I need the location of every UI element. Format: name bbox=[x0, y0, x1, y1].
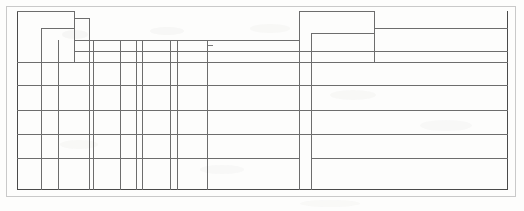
row-divider-header-bottom bbox=[74, 51, 508, 52]
header-block-b-top bbox=[41, 28, 75, 29]
paper-speck bbox=[300, 200, 360, 207]
row-divider-3 bbox=[17, 110, 508, 111]
row-divider-2 bbox=[17, 85, 508, 86]
row-divider-5 bbox=[17, 158, 299, 159]
header-block-c-top bbox=[74, 18, 90, 19]
row-divider-1 bbox=[17, 62, 508, 63]
row-divider-4 bbox=[17, 134, 508, 135]
header-block-f-top bbox=[311, 33, 375, 34]
header-block-e-left bbox=[299, 11, 300, 190]
scan-tick-mark-icon bbox=[208, 45, 213, 46]
row-divider-5b bbox=[311, 158, 508, 159]
header-block-d-top bbox=[74, 40, 299, 41]
header-block-a-top bbox=[17, 11, 75, 12]
header-block-f-left bbox=[311, 33, 312, 190]
header-block-g-top bbox=[374, 28, 508, 29]
table-bottom-border bbox=[17, 189, 508, 190]
header-block-e-top bbox=[299, 11, 375, 12]
header-block-b-left bbox=[41, 28, 42, 190]
table-right-border bbox=[507, 11, 508, 190]
scanned-page bbox=[0, 0, 524, 211]
form-table bbox=[17, 11, 508, 190]
header-block-c-right bbox=[89, 18, 90, 190]
header-block-e-right bbox=[374, 11, 375, 62]
table-left-border bbox=[17, 11, 18, 190]
